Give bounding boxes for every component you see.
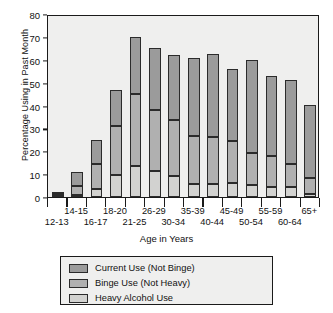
x-axis-tick-label: 50-54 bbox=[239, 217, 263, 227]
x-axis-tick-label: 40-44 bbox=[200, 217, 224, 227]
bar-segment-binge bbox=[52, 194, 64, 196]
legend-swatch-heavy bbox=[69, 294, 88, 303]
bar-21-25 bbox=[130, 14, 142, 197]
bar-segment-binge bbox=[130, 94, 142, 166]
legend-label: Binge Use (Not Heavy) bbox=[95, 278, 190, 288]
bar-26-29 bbox=[149, 14, 161, 197]
bar-segment-current bbox=[71, 172, 83, 186]
bar-segment-heavy bbox=[110, 175, 122, 197]
x-axis-tick-mark bbox=[47, 198, 48, 207]
bar-segment-current bbox=[285, 80, 297, 164]
bar-35-39 bbox=[188, 14, 200, 197]
bar-segment-current bbox=[149, 48, 161, 110]
bar-segment-current bbox=[52, 192, 64, 194]
bar-30-34 bbox=[168, 14, 180, 197]
bar-segment-binge bbox=[207, 137, 219, 184]
bar-segment-current bbox=[130, 37, 142, 94]
x-axis-tick-label: 35-39 bbox=[181, 206, 205, 216]
plot-area bbox=[47, 15, 319, 198]
legend-label: Heavy Alcohol Use bbox=[95, 293, 173, 303]
bar-segment-binge bbox=[188, 136, 200, 184]
x-axis-tick-label: 21-25 bbox=[123, 217, 147, 227]
bar-segment-current bbox=[207, 54, 219, 137]
bar-segment-current bbox=[168, 55, 180, 121]
x-axis-tick-mark bbox=[319, 198, 320, 207]
bar-segment-binge bbox=[304, 178, 316, 194]
x-axis-title: Age in Years bbox=[0, 233, 333, 244]
x-axis-tick-label: 14-15 bbox=[64, 206, 88, 216]
bar-segment-current bbox=[188, 58, 200, 136]
legend-item: Binge Use (Not Heavy) bbox=[69, 276, 272, 290]
bar-45-49 bbox=[227, 14, 239, 197]
legend-swatch-current bbox=[69, 264, 88, 273]
legend-item: Current Use (Not Binge) bbox=[69, 261, 272, 275]
bar-segment-current bbox=[110, 90, 122, 126]
bar-segment-heavy bbox=[304, 194, 316, 197]
bar-55-59 bbox=[266, 14, 278, 197]
bar-segment-current bbox=[246, 60, 258, 152]
y-axis-tick-label: 0 bbox=[16, 193, 40, 204]
bar-segment-binge bbox=[91, 164, 103, 190]
bar-segment-binge bbox=[266, 156, 278, 187]
x-axis-tick-label: 60-64 bbox=[278, 217, 302, 227]
x-axis-tick-label: 30-34 bbox=[161, 217, 185, 227]
bar-segment-heavy bbox=[71, 195, 83, 197]
y-axis-tick-label: 70 bbox=[16, 32, 40, 43]
bar-segment-binge bbox=[71, 186, 83, 195]
bar-segment-heavy bbox=[149, 171, 161, 197]
bar-segment-current bbox=[266, 76, 278, 156]
bar-segment-heavy bbox=[246, 185, 258, 197]
bar-segment-heavy bbox=[188, 184, 200, 197]
x-axis-tick-label: 18-20 bbox=[103, 206, 127, 216]
bar-segment-current bbox=[91, 140, 103, 164]
y-axis-tick-label: 80 bbox=[16, 10, 40, 21]
bar-segment-heavy bbox=[266, 187, 278, 197]
bar-65+ bbox=[304, 14, 316, 197]
y-axis-tick-label: 10 bbox=[16, 170, 40, 181]
bar-segment-current bbox=[227, 69, 239, 141]
bar-segment-binge bbox=[149, 110, 161, 171]
x-axis-tick-label: 26-29 bbox=[142, 206, 166, 216]
legend-swatch-binge bbox=[69, 279, 88, 288]
bar-50-54 bbox=[246, 14, 258, 197]
y-axis-tick-label: 20 bbox=[16, 147, 40, 158]
x-axis-tick-label: 65+ bbox=[301, 206, 317, 216]
bar-segment-heavy bbox=[91, 189, 103, 197]
legend-item: Heavy Alcohol Use bbox=[69, 291, 272, 305]
bar-12-13 bbox=[52, 14, 64, 197]
bar-segment-binge bbox=[246, 153, 258, 185]
y-axis-tick-label: 60 bbox=[16, 55, 40, 66]
legend: Current Use (Not Binge)Binge Use (Not He… bbox=[60, 256, 273, 305]
bar-segment-heavy bbox=[130, 166, 142, 197]
y-axis-tick-label: 30 bbox=[16, 124, 40, 135]
bar-segment-heavy bbox=[285, 187, 297, 197]
x-axis-tick-label: 45-49 bbox=[220, 206, 244, 216]
bar-segment-heavy bbox=[207, 184, 219, 197]
y-axis-tick-label: 50 bbox=[16, 78, 40, 89]
bar-segment-heavy bbox=[227, 183, 239, 197]
bar-segment-binge bbox=[110, 126, 122, 175]
bar-segment-current bbox=[304, 105, 316, 178]
bar-segment-binge bbox=[168, 120, 180, 176]
bar-18-20 bbox=[110, 14, 122, 197]
x-axis-tick-label: 16-17 bbox=[84, 217, 108, 227]
bar-14-15 bbox=[71, 14, 83, 197]
bar-40-44 bbox=[207, 14, 219, 197]
x-axis-tick-label: 12-13 bbox=[45, 217, 69, 227]
bar-segment-binge bbox=[227, 141, 239, 182]
bar-60-64 bbox=[285, 14, 297, 197]
bar-segment-binge bbox=[285, 164, 297, 187]
x-axis-tick-label: 55-59 bbox=[259, 206, 283, 216]
legend-label: Current Use (Not Binge) bbox=[95, 263, 195, 273]
bar-segment-heavy bbox=[168, 176, 180, 197]
y-axis-tick-label: 40 bbox=[16, 101, 40, 112]
bar-16-17 bbox=[91, 14, 103, 197]
stacked-bar-chart: Percentage Using in Past Month 010203040… bbox=[0, 0, 333, 313]
